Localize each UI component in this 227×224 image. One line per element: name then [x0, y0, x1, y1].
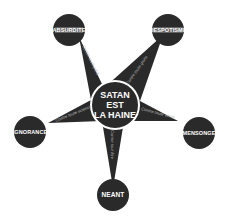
node-label-neant: NEANT [102, 191, 125, 198]
node-mensonge: MENSONGE [183, 117, 216, 149]
node-label-mensonge: MENSONGE [183, 130, 216, 136]
center-line-2: EST [106, 100, 124, 110]
center-line-1: SATAN [100, 90, 130, 100]
node-despotisme: DESPOTISME [149, 14, 186, 46]
pentagram-diagram: SATAN EST LA HAINE Contre toute piété Co… [0, 0, 227, 224]
arm-label-neant: Contre tout être [110, 130, 115, 160]
node-neant: NEANT [97, 179, 129, 211]
node-label-despotisme: DESPOTISME [149, 27, 186, 33]
node-label-ignorance: IGNORANCE [13, 129, 48, 135]
center-line-3: LA HAINE [94, 110, 136, 120]
node-ignorance: IGNORANCE [13, 116, 48, 148]
node-label-absurdite: ABSURDITE [53, 27, 86, 33]
